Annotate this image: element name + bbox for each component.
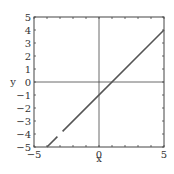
reference-lines [34,17,164,147]
y-tick-label: 1 [25,64,31,75]
y-tick-label: 4 [25,25,31,36]
y-tick-label: −4 [16,129,31,140]
series-line [63,30,164,131]
y-tick-label: 5 [25,12,31,23]
data-series [47,30,164,147]
y-tick-label: −1 [16,90,31,101]
y-tick-label: 2 [25,51,31,62]
y-tick-label: 0 [25,77,31,88]
x-tick-label: 5 [161,149,167,160]
y-tick-labels: 543210−1−2−3−4−5 [16,12,31,153]
y-tick-label: −3 [16,116,31,127]
line-chart: 543210−1−2−3−4−5 −505 x y [0,0,174,174]
x-tick-label: −5 [27,149,42,160]
series-line [47,137,57,147]
y-tick-label: 3 [25,38,31,49]
x-axis-label: x [96,153,102,164]
y-tick-label: −2 [16,103,31,114]
y-axis-label: y [9,76,16,87]
